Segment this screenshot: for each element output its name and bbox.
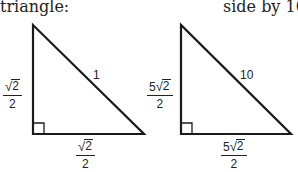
left-triangle-shape [33, 25, 144, 134]
right-triangle [181, 25, 291, 134]
right-triangle-shape [181, 25, 291, 134]
left-right-angle-marker [33, 123, 44, 134]
right-hypotenuse-label: 10 [240, 68, 253, 82]
square-root: √ 2 [78, 139, 93, 153]
right-right-angle-marker [181, 123, 192, 134]
left-hypotenuse-label: 1 [93, 68, 100, 82]
left-vertical-leg-label: √ 2 2 [3, 79, 22, 110]
square-root: √ 2 [5, 79, 20, 93]
square-root: √ 2 [156, 79, 171, 93]
left-triangle [33, 25, 144, 134]
square-root: √ 2 [230, 139, 245, 153]
left-horizontal-leg-label: √ 2 2 [76, 139, 95, 170]
right-vertical-leg-label: 5 √ 2 2 [147, 79, 173, 110]
coefficient: 5 [223, 141, 230, 153]
coefficient: 5 [149, 81, 156, 93]
right-horizontal-leg-label: 5 √ 2 2 [221, 139, 247, 170]
